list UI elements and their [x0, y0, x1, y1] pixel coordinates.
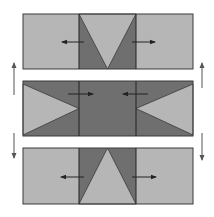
panel-bottom [23, 148, 193, 204]
diagram-canvas [0, 0, 214, 217]
panel-top [23, 14, 193, 69]
panels-layer [23, 14, 193, 204]
panel-middle [23, 81, 193, 136]
